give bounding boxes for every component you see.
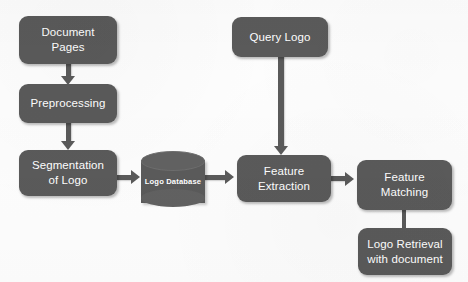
node-segmentation-line2: of Logo [28,173,108,188]
arrow-shaft [278,56,284,150]
node-segmentation-line1: Segmentation [28,158,108,173]
node-feature-extraction-line1: Feature [254,164,314,179]
node-preprocessing-line1: Preprocessing [27,96,110,111]
arrow-head-down-icon [61,141,75,150]
node-segmentation-of-logo[interactable]: Segmentation of Logo [19,150,117,196]
node-document-pages[interactable]: Document Pages [19,16,117,64]
node-feature-matching-line1: Feature [377,170,432,185]
arrow-head-right-icon [225,170,234,184]
arrow-head-right-icon [345,172,354,186]
arrow-head-down-icon [274,146,288,155]
cylinder-top-ellipse [141,151,205,171]
node-feature-matching[interactable]: Feature Matching [357,160,452,210]
node-logo-database[interactable]: Logo Database [141,151,205,212]
arrow-shaft [204,175,226,180]
node-feature-extraction-line2: Extraction [254,179,314,194]
node-query-logo[interactable]: Query Logo [232,17,328,57]
node-preprocessing[interactable]: Preprocessing [19,84,117,123]
arrow-head-right-icon [131,170,140,184]
node-document-pages-line2: Pages [37,40,98,55]
node-feature-matching-line2: Matching [377,185,432,200]
cylinder-bottom-ellipse [141,189,205,207]
arrow-shaft [66,121,71,143]
node-document-pages-line1: Document [37,25,98,40]
node-logo-retrieval-line2: with document [363,252,447,267]
node-logo-database-label: Logo Database [141,177,205,186]
node-query-logo-line1: Query Logo [245,30,314,45]
flowchart-canvas: Document Pages Preprocessing Segmentatio… [0,0,468,282]
connector-line [402,208,406,230]
node-logo-retrieval-line1: Logo Retrieval [363,237,447,252]
node-logo-retrieval-with-document[interactable]: Logo Retrieval with document [358,228,452,275]
node-feature-extraction[interactable]: Feature Extraction [237,155,331,202]
